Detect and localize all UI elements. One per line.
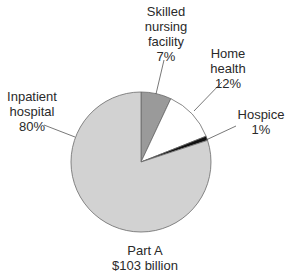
pie-slices (71, 92, 211, 232)
label-skilled-nursing: Skilled nursing facility 7% (136, 4, 196, 64)
leader-line-skilled-nursing (156, 60, 164, 94)
label-hospice: Hospice 1% (236, 107, 285, 137)
chart-total: $103 billion (95, 258, 195, 273)
chart-title: Part A (95, 243, 195, 258)
leader-line-hospice (206, 126, 236, 140)
chart-caption: Part A $103 billion (95, 243, 195, 273)
label-inpatient-hospital: Inpatient hospital 80% (0, 89, 64, 134)
label-home-health: Home health 12% (203, 46, 253, 91)
